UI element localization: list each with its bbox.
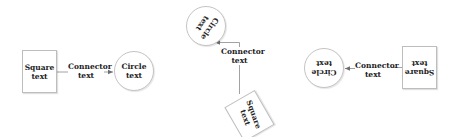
square-label-3: Square text (403, 59, 436, 77)
connector-label-2[interactable]: Connector text (221, 47, 258, 65)
square-node-1[interactable]: Square text (22, 50, 57, 93)
circle-node-2[interactable]: Circle text (186, 6, 226, 46)
circle-node-3[interactable]: Circle text (304, 48, 344, 88)
connector-label-3[interactable]: Connector text (355, 61, 391, 79)
circle-label-2: Circle text (188, 5, 225, 46)
diagram-canvas: Square text Connector text Circle text C… (0, 0, 459, 137)
circle-label-1: Circle text (115, 62, 153, 80)
square-node-3[interactable]: Square text (402, 46, 437, 89)
square-label-1: Square text (23, 63, 56, 81)
connector-label-1[interactable]: Connector text (68, 62, 104, 80)
circle-label-3: Circle text (305, 59, 343, 77)
square-label-2: Square text (235, 97, 263, 134)
circle-node-1[interactable]: Circle text (114, 51, 154, 91)
